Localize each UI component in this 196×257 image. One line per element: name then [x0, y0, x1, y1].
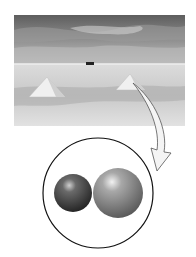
large-sphere — [93, 168, 143, 218]
small-sphere — [54, 174, 92, 212]
diagram-canvas — [0, 0, 196, 257]
vehicle — [86, 62, 94, 65]
salt-flats-photo — [14, 15, 185, 126]
